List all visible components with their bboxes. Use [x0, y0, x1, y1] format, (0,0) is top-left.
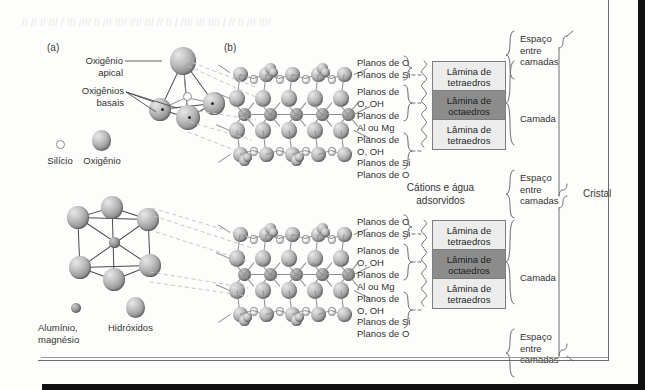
figure-page: // // // /// / /// //// // /// //// ////…: [0, 0, 645, 390]
page-frame-inner-2: [41, 0, 608, 358]
page-edge-right: [638, 0, 645, 390]
page-edge-bottom: [42, 384, 645, 390]
